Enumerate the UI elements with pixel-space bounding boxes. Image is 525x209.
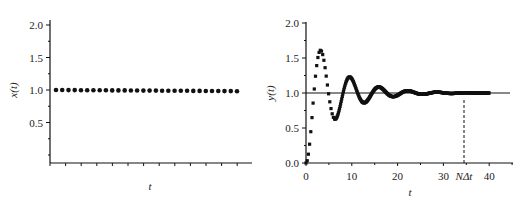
data-point bbox=[327, 92, 330, 95]
right-x-axis-title: t bbox=[408, 186, 412, 198]
x-tick-label: 10 bbox=[346, 170, 358, 182]
y-tick-label: 2.0 bbox=[285, 17, 299, 29]
y-tick-label: 0.5 bbox=[29, 117, 43, 129]
data-point bbox=[309, 130, 312, 133]
data-point bbox=[85, 88, 90, 93]
y-tick-label: 1.0 bbox=[285, 87, 299, 99]
data-point bbox=[166, 88, 171, 93]
data-point bbox=[122, 88, 127, 93]
data-point bbox=[210, 89, 215, 94]
data-point bbox=[197, 89, 202, 94]
data-point bbox=[322, 59, 325, 62]
x-tick-label: 20 bbox=[392, 170, 404, 182]
data-point bbox=[235, 89, 240, 94]
data-point bbox=[329, 107, 332, 110]
left-panel: 2.01.51.00.5 x(t) t bbox=[7, 19, 252, 192]
right-x-ticks: 010203040 bbox=[303, 163, 512, 182]
data-point bbox=[326, 83, 329, 86]
data-point bbox=[321, 53, 324, 56]
right-y-ticks: 2.01.51.00.50.0 bbox=[285, 17, 306, 169]
right-panel: 2.01.51.00.50.0 010203040 y(t) t NΔt bbox=[264, 17, 513, 198]
data-point bbox=[310, 116, 313, 119]
data-point bbox=[110, 88, 115, 93]
left-series-dots bbox=[54, 88, 240, 94]
data-point bbox=[179, 89, 184, 94]
left-y-axis-title: x(t) bbox=[7, 82, 20, 99]
data-point bbox=[204, 89, 209, 94]
data-point bbox=[313, 87, 316, 90]
data-point bbox=[324, 66, 327, 69]
data-point bbox=[116, 88, 121, 93]
data-point bbox=[60, 88, 65, 93]
data-point bbox=[147, 88, 152, 93]
data-point bbox=[229, 89, 234, 94]
y-tick-label: 1.0 bbox=[29, 84, 43, 96]
figure: 2.01.51.00.5 x(t) t 2.01.51.00.50.0 0102… bbox=[0, 0, 525, 209]
data-point bbox=[72, 88, 77, 93]
data-point bbox=[141, 88, 146, 93]
data-point bbox=[97, 88, 102, 93]
y-tick-label: 0.5 bbox=[285, 122, 299, 134]
data-point bbox=[331, 112, 334, 115]
x-tick-label: 40 bbox=[484, 170, 496, 182]
data-point bbox=[104, 88, 109, 93]
y-tick-label: 0.0 bbox=[285, 157, 299, 169]
data-point bbox=[320, 50, 323, 53]
data-point bbox=[307, 153, 310, 156]
data-point bbox=[54, 88, 59, 93]
data-point bbox=[172, 89, 177, 94]
data-point bbox=[315, 64, 318, 67]
data-point bbox=[316, 56, 319, 59]
left-x-axis-title: t bbox=[148, 180, 152, 192]
y-tick-label: 2.0 bbox=[29, 19, 43, 31]
x-tick-label: 30 bbox=[438, 170, 450, 182]
data-point bbox=[79, 88, 84, 93]
data-point bbox=[306, 159, 309, 162]
data-point bbox=[129, 88, 134, 93]
x-tick-label: 0 bbox=[303, 170, 309, 182]
data-point bbox=[191, 89, 196, 94]
data-point bbox=[154, 88, 159, 93]
right-y-axis-title: y(t) bbox=[264, 85, 277, 102]
y-tick-label: 1.5 bbox=[29, 52, 43, 64]
data-point bbox=[66, 88, 71, 93]
n-delta-t-label: NΔt bbox=[455, 170, 474, 182]
data-point bbox=[328, 100, 331, 103]
data-point bbox=[160, 88, 165, 93]
right-series-squares bbox=[304, 49, 490, 165]
data-point bbox=[216, 89, 221, 94]
data-point bbox=[325, 75, 328, 78]
data-point bbox=[91, 88, 96, 93]
y-tick-label: 1.5 bbox=[285, 52, 299, 64]
data-point bbox=[314, 75, 317, 78]
data-point bbox=[308, 143, 311, 146]
data-point bbox=[487, 91, 490, 94]
data-point bbox=[222, 89, 227, 94]
data-point bbox=[185, 89, 190, 94]
data-point bbox=[135, 88, 140, 93]
left-y-ticks: 2.01.51.00.5 bbox=[29, 19, 50, 155]
data-point bbox=[312, 102, 315, 105]
